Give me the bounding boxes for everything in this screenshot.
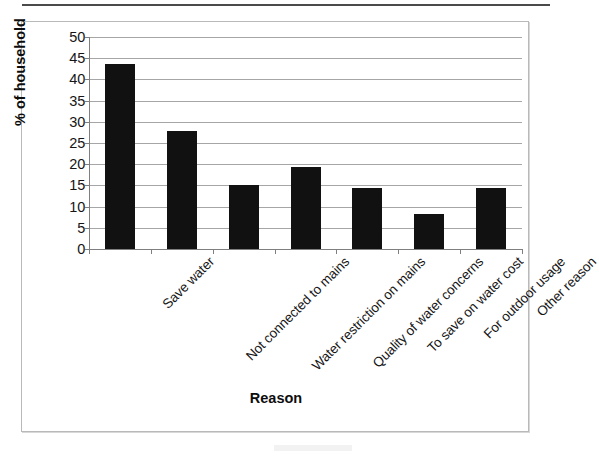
y-axis-tick-label: 45 bbox=[69, 50, 85, 66]
y-axis-tick-label: 15 bbox=[69, 177, 85, 193]
gridline bbox=[89, 122, 522, 123]
y-axis-tick-label: 20 bbox=[69, 156, 85, 172]
gridline bbox=[89, 164, 522, 165]
gridline bbox=[89, 143, 522, 144]
y-axis-tick-label: 40 bbox=[69, 71, 85, 87]
y-axis-tick-label: 5 bbox=[77, 220, 85, 236]
y-axis-tick bbox=[85, 143, 89, 144]
y-axis-tick bbox=[85, 122, 89, 123]
y-axis-title: % of household bbox=[12, 18, 28, 126]
x-axis-category-label: Save water bbox=[159, 254, 217, 312]
bar bbox=[167, 131, 197, 249]
y-axis-tick-label: 10 bbox=[69, 199, 85, 215]
y-axis-tick bbox=[85, 79, 89, 80]
bar bbox=[291, 167, 321, 249]
y-axis-tick-label: 25 bbox=[69, 135, 85, 151]
y-axis-tick bbox=[85, 185, 89, 186]
y-axis-tick-label: 50 bbox=[69, 29, 85, 45]
x-axis-tick bbox=[522, 249, 523, 254]
gridline bbox=[89, 79, 522, 80]
y-axis-tick bbox=[85, 58, 89, 59]
bar bbox=[414, 214, 444, 249]
x-axis-title: Reason bbox=[22, 390, 530, 406]
y-axis-tick bbox=[85, 101, 89, 102]
y-axis-tick bbox=[85, 207, 89, 208]
bar bbox=[352, 188, 382, 249]
y-axis-line bbox=[89, 37, 90, 249]
bar bbox=[476, 188, 506, 249]
y-axis-tick-label: 0 bbox=[77, 241, 85, 257]
gridline bbox=[89, 58, 522, 59]
scan-artifact bbox=[274, 445, 352, 451]
y-axis-tick bbox=[85, 164, 89, 165]
y-axis-tick-label: 35 bbox=[69, 93, 85, 109]
y-axis-tick bbox=[85, 37, 89, 38]
y-axis-tick-label: 30 bbox=[69, 114, 85, 130]
chart-frame: % of household 05101520253035404550 Save… bbox=[21, 21, 529, 432]
plot-area bbox=[89, 37, 522, 249]
bar bbox=[229, 185, 259, 249]
gridline bbox=[89, 101, 522, 102]
page-top-rule bbox=[22, 4, 550, 6]
gridline bbox=[89, 37, 522, 38]
y-axis-tick bbox=[85, 228, 89, 229]
gridline bbox=[89, 249, 522, 250]
y-axis-tick-labels: 05101520253035404550 bbox=[62, 37, 85, 249]
bar bbox=[105, 64, 135, 249]
x-axis-category-labels: Save waterNot connected to mainsWater re… bbox=[89, 254, 522, 404]
